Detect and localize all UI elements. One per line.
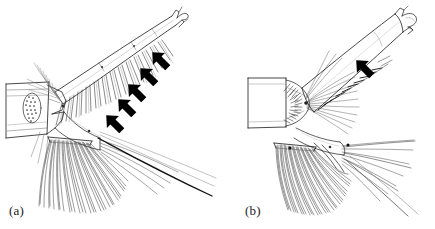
basal-short-bristles: [31, 132, 48, 164]
elongate-distal-segment: [302, 14, 403, 112]
panel-b-drawing: [218, 0, 435, 229]
articulation-joint: [47, 85, 66, 134]
figure-canvas: (a): [0, 0, 435, 229]
arrow-5: [100, 109, 128, 137]
panel-a: (a): [0, 0, 218, 229]
forked-apex: [172, 7, 188, 27]
seta-socket: [346, 143, 349, 146]
panel-b-label: (b): [245, 203, 261, 219]
lateral-seta-group-dark: [344, 141, 415, 191]
long-trailing-seta-companion: [100, 132, 216, 186]
basal-segment: [248, 78, 286, 128]
arrow-group-a: [100, 46, 174, 137]
panel-b: (b): [218, 0, 435, 229]
ventral-seta-fan-dark: [277, 145, 350, 214]
panel-a-label: (a): [9, 203, 24, 219]
stippled-oval-organ: [23, 93, 41, 123]
hooked-apex: [395, 6, 417, 34]
lateral-seta-group: [342, 140, 414, 201]
panel-a-drawing: [0, 0, 218, 229]
setal-tufts: [284, 84, 302, 123]
